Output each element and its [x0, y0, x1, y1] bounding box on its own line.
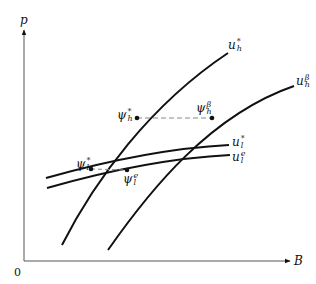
label-base: u [296, 74, 304, 88]
label-base: u [232, 150, 240, 164]
label-psi-h-star: ψ*h [117, 108, 133, 122]
label-sub: l [86, 164, 90, 171]
label-sub: h [305, 81, 310, 88]
origin-label: 0 [14, 267, 21, 278]
label-base: ψ [117, 108, 126, 122]
label-base: u [228, 38, 236, 52]
label-sub: l [133, 179, 138, 186]
label-u-l-star: u*l [232, 135, 245, 149]
label-sub: h [206, 108, 211, 115]
label-psi-l-star: ψ*l [76, 157, 90, 171]
label-sub: h [237, 45, 242, 52]
label-base: ψ [123, 172, 132, 186]
diagram-canvas [0, 0, 316, 284]
label-u-l-e: uel [232, 150, 245, 164]
label-sub: l [241, 157, 246, 164]
label-u-h-beta: uβh [296, 74, 310, 88]
label-base: ψ [76, 157, 85, 171]
curve-u-h-star [62, 53, 228, 245]
label-u-h-star: u*h [228, 38, 242, 52]
label-base: u [232, 135, 240, 149]
label-psi-h-beta: ψβh [196, 101, 212, 115]
y-axis-label: p [20, 14, 28, 26]
label-sub: h [127, 115, 132, 122]
label-base: ψ [196, 101, 205, 115]
label-psi-l-e: ψel [123, 172, 138, 186]
curve-u-l-e [47, 155, 230, 188]
point-psi-h-star [135, 116, 140, 121]
point-psi-h-beta [210, 116, 215, 121]
x-axis-label: B [294, 255, 303, 267]
